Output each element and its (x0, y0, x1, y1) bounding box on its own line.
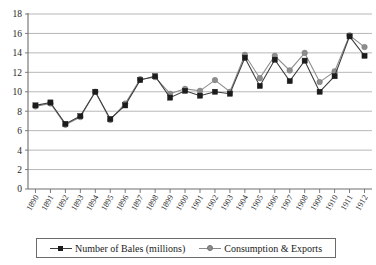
gridlines (25, 14, 372, 189)
x-tick-label: 1893 (69, 194, 85, 213)
y-axis-tick-labels: 024681012141618 (13, 9, 23, 194)
data-point (302, 50, 308, 56)
legend-entry-consumption: Consumption & Exports (199, 243, 322, 254)
legend-entry-bales: Number of Bales (millions) (50, 243, 185, 254)
chart-canvas: 024681012141618 189018911892189318941895… (0, 0, 376, 232)
x-tick-label: 1899 (159, 194, 175, 213)
data-point (108, 116, 113, 121)
data-point (317, 79, 323, 85)
x-tick-label: 1890 (25, 194, 41, 213)
data-point (287, 78, 292, 83)
series-line-bales (35, 36, 364, 124)
legend-key-square-icon (50, 244, 72, 253)
legend-label-bales: Number of Bales (millions) (75, 243, 185, 254)
y-tick-label: 8 (17, 107, 22, 117)
data-point (33, 103, 38, 108)
data-point (332, 74, 337, 79)
y-tick-label: 6 (17, 126, 22, 136)
x-tick-label: 1898 (144, 194, 160, 213)
data-series (33, 33, 368, 128)
data-point (78, 113, 83, 118)
data-point (123, 103, 128, 108)
data-point (302, 58, 307, 63)
y-tick-label: 2 (17, 165, 22, 175)
x-tick-label: 1906 (264, 194, 280, 213)
data-point (138, 78, 143, 83)
data-point (242, 55, 247, 60)
data-point (227, 91, 232, 96)
x-tick-label: 1900 (174, 194, 190, 213)
legend-label-consumption: Consumption & Exports (224, 243, 322, 254)
data-point (167, 95, 172, 100)
y-tick-label: 0 (17, 184, 22, 194)
y-tick-label: 18 (13, 9, 23, 19)
data-point (362, 44, 368, 50)
chart-legend: Number of Bales (millions) Consumption &… (36, 238, 336, 258)
plot-area: 024681012141618 189018911892189318941895… (0, 0, 376, 232)
x-tick-label: 1895 (99, 194, 115, 213)
data-point (153, 74, 158, 79)
x-axis-tick-labels: 1890189118921893189418951896189718981899… (25, 193, 370, 213)
axis-lines (28, 13, 372, 189)
data-point (93, 89, 98, 94)
x-tick-label: 1910 (324, 194, 340, 213)
x-tick-label: 1897 (129, 194, 145, 213)
x-tick-label: 1892 (55, 194, 71, 213)
data-point (287, 68, 293, 74)
data-point (317, 89, 322, 94)
x-tick-label: 1891 (40, 194, 56, 213)
x-tick-label: 1905 (249, 194, 265, 213)
data-point (63, 121, 68, 126)
y-tick-label: 10 (13, 87, 23, 97)
x-tick-label: 1903 (219, 194, 235, 213)
cotton-production-line-chart: 024681012141618 189018911892189318941895… (0, 0, 376, 265)
data-point (212, 89, 217, 94)
data-point (347, 34, 352, 39)
y-tick-label: 4 (17, 146, 22, 156)
x-tick-label: 1909 (309, 194, 325, 213)
data-point (48, 100, 53, 105)
x-tick-label: 1904 (234, 193, 251, 213)
x-tick-label: 1896 (114, 194, 130, 213)
y-tick-label: 12 (13, 68, 23, 78)
x-tick-label: 1908 (294, 194, 310, 213)
y-tick-label: 14 (13, 48, 23, 58)
legend-key-circle-icon (199, 244, 221, 253)
data-point (182, 88, 187, 93)
x-tick-label: 1912 (354, 194, 370, 213)
data-point (362, 53, 367, 58)
x-tick-label: 1907 (279, 194, 295, 213)
x-axis-tickmarks (35, 189, 364, 193)
data-point (197, 93, 202, 98)
x-tick-label: 1901 (189, 194, 205, 213)
data-point (197, 88, 203, 94)
x-tick-label: 1902 (204, 194, 220, 213)
data-point (257, 75, 263, 81)
x-tick-label: 1894 (84, 193, 101, 213)
data-point (212, 77, 218, 83)
data-point (257, 83, 262, 88)
x-tick-label: 1911 (339, 194, 355, 213)
y-tick-label: 16 (13, 29, 23, 39)
data-point (272, 57, 277, 62)
